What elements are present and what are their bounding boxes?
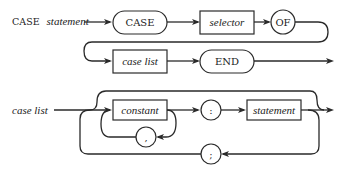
case-keyword-text: CASE (125, 17, 154, 28)
case-list-label: case list (12, 104, 49, 116)
case-list-diagram: case list constant , : statement (12, 91, 334, 164)
constant-text: constant (121, 104, 159, 116)
semicolon-text: ; (209, 149, 212, 160)
colon-text: : (209, 105, 212, 116)
case-statement-label: CASE statement (12, 11, 90, 28)
comma-text: , (144, 132, 147, 143)
statement-text: statement (253, 104, 296, 116)
syntax-diagram: CASE statement CASE selector OF case lis… (0, 0, 348, 173)
of-keyword-text: OF (275, 17, 290, 28)
case-statement-diagram: CASE statement CASE selector OF case lis… (12, 10, 334, 73)
case-list-text: case list (122, 55, 159, 67)
selector-text: selector (210, 16, 246, 28)
end-keyword-text: END (215, 56, 239, 67)
